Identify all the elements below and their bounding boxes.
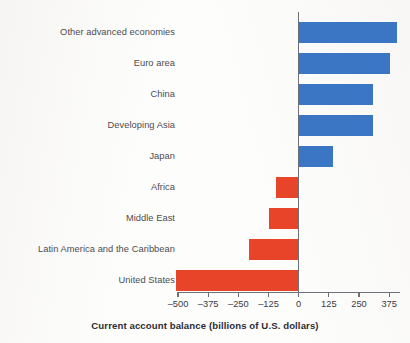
- x-axis-tick: [389, 292, 390, 297]
- category-label-developing-asia: Developing Asia: [108, 120, 175, 130]
- x-axis-tick-label: –250: [228, 299, 249, 309]
- category-label-china: China: [150, 89, 175, 99]
- category-label-euro-area: Euro area: [134, 58, 175, 68]
- bar-developing-asia: [299, 115, 373, 136]
- bar-united-states: [176, 270, 299, 291]
- x-axis-tick: [238, 292, 239, 297]
- x-axis-tick: [268, 292, 269, 297]
- x-axis-tick: [298, 292, 299, 297]
- current-account-balance-bar-chart: Other advanced economies Euro area China…: [0, 0, 410, 343]
- x-axis-tick: [177, 292, 178, 297]
- x-axis-tick-label: 375: [381, 299, 397, 309]
- x-axis-tick: [208, 292, 209, 297]
- bar-middle-east: [269, 208, 299, 229]
- x-axis-title: Current account balance (billions of U.S…: [0, 320, 410, 331]
- zero-axis-line: [298, 12, 299, 293]
- x-axis-tick-label: 125: [321, 299, 337, 309]
- bar-japan: [299, 146, 333, 167]
- x-axis-tick-label: –500: [168, 299, 189, 309]
- x-axis-tick: [328, 292, 329, 297]
- bar-euro-area: [299, 53, 390, 74]
- category-label-other-advanced-economies: Other advanced economies: [60, 27, 175, 37]
- x-axis-tick-label: –375: [198, 299, 219, 309]
- bar-africa: [276, 177, 299, 198]
- x-axis-line: [178, 292, 400, 293]
- category-label-middle-east: Middle East: [126, 213, 175, 223]
- bar-china: [299, 84, 373, 105]
- plot-area: [178, 12, 400, 292]
- x-axis-tick-label: 0: [296, 299, 301, 309]
- bar-latin-america-and-the-caribbean: [249, 239, 298, 260]
- x-axis-tick-label: 250: [351, 299, 367, 309]
- category-label-latin-america-and-the-caribbean: Latin America and the Caribbean: [38, 244, 175, 254]
- category-label-africa: Africa: [151, 182, 175, 192]
- x-axis-tick-label: –125: [258, 299, 279, 309]
- category-label-united-states: United States: [119, 275, 175, 285]
- category-label-japan: Japan: [149, 151, 175, 161]
- bar-other-advanced-economies: [299, 22, 397, 43]
- x-axis-tick: [358, 292, 359, 297]
- category-axis-labels: Other advanced economies Euro area China…: [0, 0, 175, 343]
